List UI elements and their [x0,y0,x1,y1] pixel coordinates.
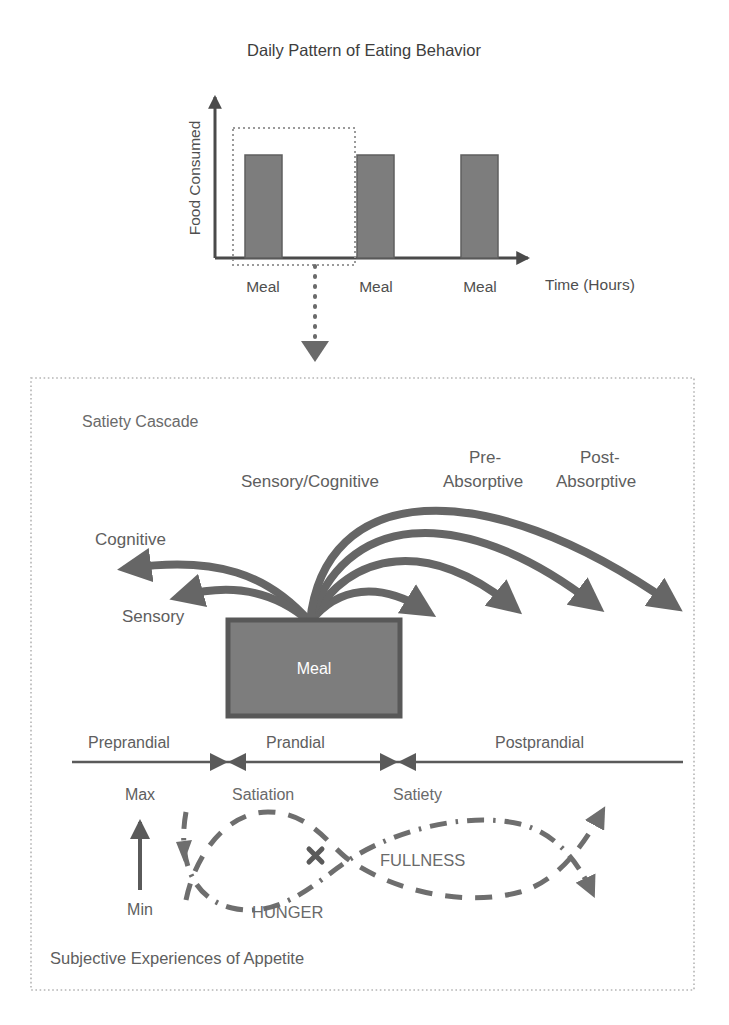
timeline-divider-1-right-icon [228,753,246,771]
label-post-absorptive-line1: Post- [580,448,620,467]
curve-crossing-marker-icon [309,849,322,862]
x-axis-label: Time (Hours) [545,276,635,293]
label-pre-absorptive-line2: Absorptive [443,472,523,491]
timeline-divider-2-right-icon [398,753,416,771]
label-cognitive: Cognitive [95,530,166,549]
curve-label-hunger: HUNGER [252,903,324,921]
label-sensory-cognitive: Sensory/Cognitive [241,472,379,491]
timeline-divider-1-left-icon [210,753,228,771]
figure-root: Daily Pattern of Eating Behavior Food Co… [0,0,729,1025]
state-label-satiation: Satiation [232,786,294,803]
cascade-arrow-sensory [182,590,310,622]
bar-label-meal-1: Meal [246,278,280,295]
curve-hunger-start-arrowhead-icon [176,840,192,862]
bar-label-meal-2: Meal [359,278,393,295]
bar-meal-2 [357,155,394,258]
chart-title: Daily Pattern of Eating Behavior [247,41,481,59]
label-post-absorptive-line2: Absorptive [556,472,636,491]
meal-box-label: Meal [297,660,332,677]
scale-label-max: Max [125,786,155,803]
satiety-cascade-panel: Satiety Cascade Sensory/Cognitive Pre- A… [31,378,694,990]
cascade-arrows [130,511,672,622]
timeline-divider-2-left-icon [380,753,398,771]
scale-label-min: Min [127,901,153,918]
bar-meal-3 [461,155,498,258]
panel-caption: Subjective Experiences of Appetite [50,949,304,967]
label-sensory: Sensory [122,607,185,626]
label-pre-absorptive-line1: Pre- [469,448,501,467]
state-label-satiety: Satiety [393,786,442,803]
y-axis-label: Food Consumed [186,121,203,236]
panel-heading: Satiety Cascade [82,413,199,430]
curve-label-fullness: FULLNESS [380,851,465,869]
bar-meal-1 [245,155,282,258]
phase-label-preprandial: Preprandial [88,734,170,751]
phase-label-postprandial: Postprandial [495,734,584,751]
bar-label-meal-3: Meal [463,278,497,295]
bar-chart: Daily Pattern of Eating Behavior Food Co… [186,41,635,362]
connector-arrowhead-icon [301,341,329,362]
phase-label-prandial: Prandial [266,734,325,751]
